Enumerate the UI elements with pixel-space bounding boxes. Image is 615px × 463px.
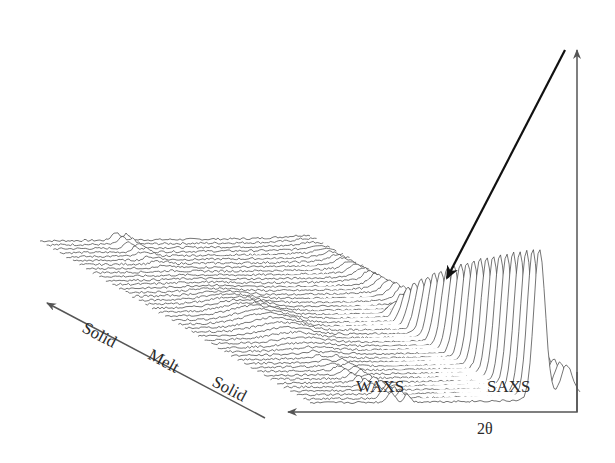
two-theta-label: 2θ xyxy=(477,420,493,438)
saxs-label: SAXS xyxy=(487,377,530,397)
waxs-label: WAXS xyxy=(356,377,404,397)
annotation-arrow xyxy=(447,50,565,278)
